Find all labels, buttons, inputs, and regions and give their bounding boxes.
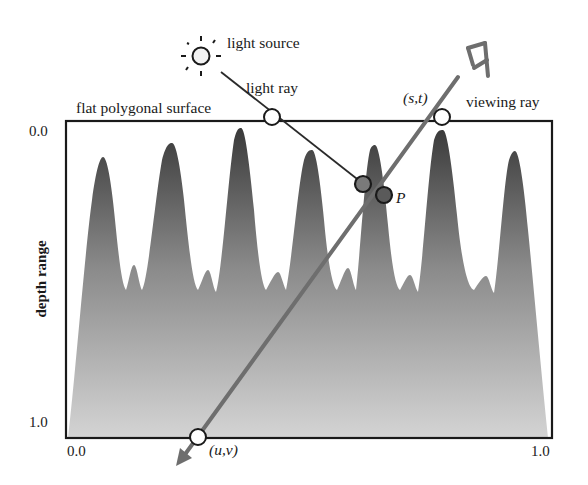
y-tick-top: 0.0 bbox=[29, 123, 48, 139]
surface-label: flat polygonal surface bbox=[76, 99, 211, 116]
viewing-ray-label: viewing ray bbox=[466, 93, 540, 110]
intersection-point-label: P bbox=[395, 189, 406, 206]
y-axis-title: depth range bbox=[33, 240, 49, 317]
entry-point-marker bbox=[434, 109, 450, 125]
light-entry-marker bbox=[264, 109, 280, 125]
intersection-point-marker bbox=[376, 187, 392, 203]
exit-point-marker bbox=[190, 429, 206, 445]
eye-icon bbox=[468, 43, 488, 76]
light-source-label: light source bbox=[227, 34, 300, 51]
light-ray-label: light ray bbox=[246, 79, 298, 96]
x-tick-right: 1.0 bbox=[531, 443, 550, 459]
x-tick-left: 0.0 bbox=[67, 443, 86, 459]
sun-icon bbox=[181, 36, 221, 76]
entry-point-label: (s,t) bbox=[403, 89, 428, 107]
exit-point-label: (u,v) bbox=[209, 441, 238, 459]
relief-mapping-diagram: light source light ray flat polygonal su… bbox=[0, 0, 588, 485]
y-tick-bottom: 1.0 bbox=[29, 414, 48, 430]
light-hit-marker bbox=[355, 176, 371, 192]
